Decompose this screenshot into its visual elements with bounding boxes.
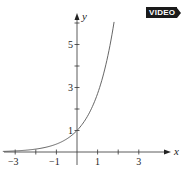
x-tick-label: −1 bbox=[49, 156, 60, 167]
x-tick-label: 1 bbox=[95, 156, 100, 167]
x-tick-label: −3 bbox=[8, 156, 19, 167]
x-tick-label: 3 bbox=[136, 156, 141, 167]
y-tick-label: 5 bbox=[68, 39, 73, 50]
play-arrow-icon bbox=[177, 8, 181, 18]
x-axis-arrow-icon bbox=[164, 150, 171, 155]
video-button[interactable]: VIDEO bbox=[146, 7, 181, 18]
x-axis-label: x bbox=[173, 145, 179, 157]
y-axis-arrow-icon bbox=[75, 13, 80, 20]
y-axis-label: y bbox=[81, 10, 87, 22]
y-tick-label: 3 bbox=[68, 82, 73, 93]
exponential-curve bbox=[3, 22, 114, 151]
video-label: VIDEO bbox=[146, 7, 177, 18]
exponential-chart: xy−3−113135 bbox=[0, 0, 188, 169]
